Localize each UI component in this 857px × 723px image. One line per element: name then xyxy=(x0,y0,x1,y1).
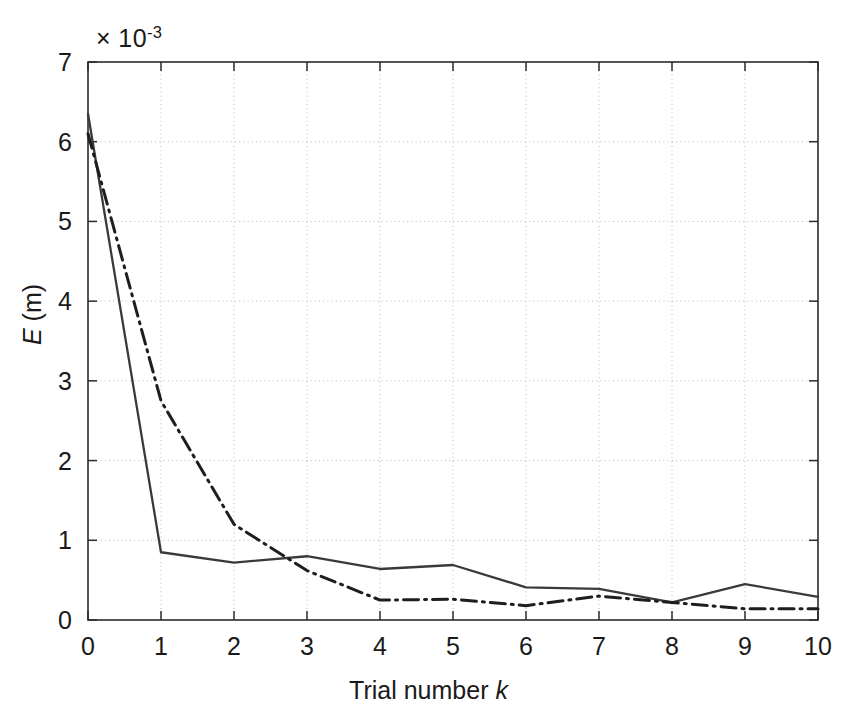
y-tick-label: 4 xyxy=(12,289,72,314)
y-tick-label: 5 xyxy=(12,209,72,234)
x-tick-label: 2 xyxy=(204,634,264,659)
chart-canvas xyxy=(0,0,857,723)
axes-frame xyxy=(88,62,818,620)
gridlines-group xyxy=(88,62,818,620)
y-tick-label: 0 xyxy=(12,608,72,633)
y-axis-multiplier-exponent: -3 xyxy=(147,23,162,41)
x-tick-label: 6 xyxy=(496,634,556,659)
y-axis-multiplier-label: × 10-3 xyxy=(96,24,162,53)
x-tick-label: 10 xyxy=(788,634,848,659)
y-axis-title: E (m) xyxy=(18,255,47,375)
plot-frame xyxy=(88,62,818,620)
y-axis-multiplier-base: × 10 xyxy=(96,24,147,52)
x-tick-label: 5 xyxy=(423,634,483,659)
y-tick-label: 1 xyxy=(12,528,72,553)
x-tick-label: 4 xyxy=(350,634,410,659)
x-tick-label: 7 xyxy=(569,634,629,659)
x-tick-label: 0 xyxy=(58,634,118,659)
y-tick-label: 7 xyxy=(12,50,72,75)
tickmarks-group xyxy=(88,62,818,620)
y-tick-label: 6 xyxy=(12,130,72,155)
x-tick-label: 9 xyxy=(715,634,775,659)
x-tick-label: 8 xyxy=(642,634,702,659)
y-tick-label: 2 xyxy=(12,449,72,474)
x-axis-title-text: Trial number xyxy=(349,676,495,704)
x-tick-label: 3 xyxy=(277,634,337,659)
x-axis-title-symbol: k xyxy=(495,676,508,704)
figure-container: × 10-3 E (m) Trial number k 012345678910… xyxy=(0,0,857,723)
y-axis-title-symbol: E xyxy=(18,328,46,345)
x-axis-title: Trial number k xyxy=(0,676,857,705)
y-tick-label: 3 xyxy=(12,369,72,394)
x-tick-label: 1 xyxy=(131,634,191,659)
